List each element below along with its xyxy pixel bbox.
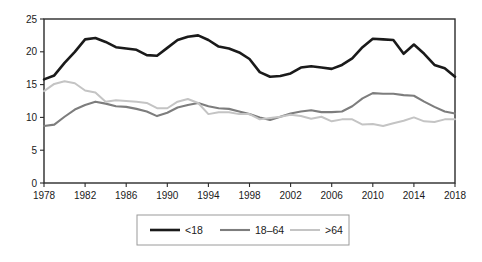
y-tick-label: 25 <box>26 14 38 25</box>
legend-label: <18 <box>185 224 203 236</box>
y-tick-label: 0 <box>31 178 37 189</box>
y-tick-label: 10 <box>26 112 38 123</box>
x-axis-tick-labels: 1978198219861990199419982002200620102014… <box>33 190 467 201</box>
plot-area: 0510152025 19781982198619901994199820022… <box>26 14 467 201</box>
y-tick-label: 15 <box>26 79 38 90</box>
y-axis-tick-labels: 0510152025 <box>26 14 38 189</box>
x-tick-label: 2018 <box>444 190 467 201</box>
x-tick-label: 2006 <box>321 190 344 201</box>
x-tick-label: 1978 <box>33 190 56 201</box>
y-tick-label: 5 <box>31 145 37 156</box>
x-tick-label: 2002 <box>279 190 302 201</box>
y-tick-label: 20 <box>26 46 38 57</box>
series-line <box>44 35 455 79</box>
x-tick-label: 1990 <box>156 190 179 201</box>
data-series-group <box>44 35 455 126</box>
legend-label: >64 <box>325 224 343 236</box>
chart-legend: <1818–64>64 <box>137 215 349 245</box>
line-chart: 0510152025 19781982198619901994199820022… <box>0 0 482 262</box>
chart-figure: 0510152025 19781982198619901994199820022… <box>0 0 482 262</box>
series-line <box>44 93 455 126</box>
x-tick-label: 2010 <box>362 190 385 201</box>
x-tick-label: 1998 <box>238 190 261 201</box>
x-tick-label: 1982 <box>74 190 97 201</box>
x-tick-label: 1986 <box>115 190 138 201</box>
x-tick-label: 2014 <box>403 190 426 201</box>
x-tick-label: 1994 <box>197 190 220 201</box>
legend-label: 18–64 <box>255 224 284 236</box>
